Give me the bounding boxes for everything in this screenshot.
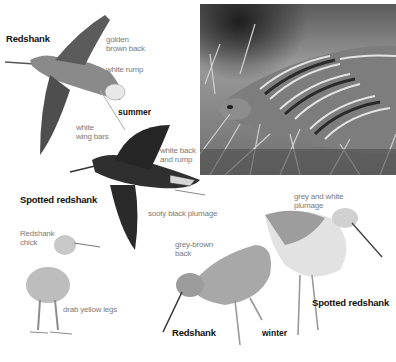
annotation-white-wing-bars: white wing bars xyxy=(76,123,108,141)
winter-spotted-redshank-illustration xyxy=(265,208,382,335)
summer-redshank-title: Redshank xyxy=(6,33,50,44)
summer-spotted-redshank-title: Spotted redshank xyxy=(20,194,97,205)
annotation-grey-brown-back: grey-brown back xyxy=(175,240,213,258)
chick-title: Redshank chick xyxy=(20,229,54,247)
summer-season-label: summer xyxy=(118,107,151,117)
annotation-drab-yellow-legs: drab yellow legs xyxy=(63,305,117,314)
chick-illustration xyxy=(26,235,100,334)
summer-spotted-redshank-illustration xyxy=(70,125,205,250)
annotation-grey-and-white-plumage: grey and white plumage xyxy=(294,192,343,210)
annotation-white-rump: white rump xyxy=(106,65,143,74)
annotation-golden-brown-back: golden brown back xyxy=(106,35,145,53)
winter-spotted-redshank-title: Spotted redshank xyxy=(312,297,389,308)
annotation-white-back-and-rump: white back and rump xyxy=(160,146,196,164)
annotation-sooty-black-plumage: sooty black plumage xyxy=(148,209,217,218)
winter-redshank-title: Redshank xyxy=(172,327,216,338)
field-guide-plate: Redshank golden brown back white rump su… xyxy=(0,0,396,362)
winter-season-label: winter xyxy=(262,328,287,338)
